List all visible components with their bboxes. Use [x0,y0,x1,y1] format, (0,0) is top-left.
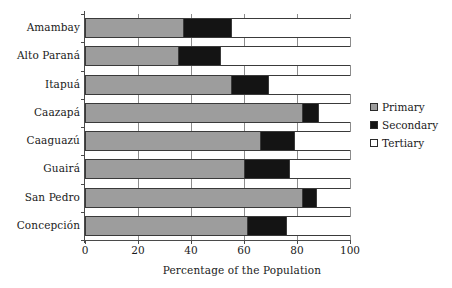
bar-row [85,46,350,66]
bar-segment-tertiary[interactable] [319,104,351,122]
bar-segment-primary[interactable] [86,47,179,65]
legend-swatch-tertiary-icon [370,139,378,147]
bar-segment-secondary[interactable] [248,217,288,235]
bar-segment-tertiary[interactable] [290,160,351,178]
bar-segment-tertiary[interactable] [232,19,351,37]
bar-segment-primary[interactable] [86,160,245,178]
bar-segment-tertiary[interactable] [287,217,351,235]
x-axis-tick-label: 0 [65,244,105,256]
legend-item-tertiary[interactable]: Tertiary [370,135,450,151]
y-axis-category-label: Amambay [0,22,80,33]
bar-segment-secondary[interactable] [303,189,316,207]
stacked-bar[interactable] [85,46,350,66]
y-axis-tick [81,240,85,241]
y-axis-tick [81,155,85,156]
y-axis-tick [81,184,85,185]
y-axis-category-label: San Pedro [0,192,80,203]
stacked-bar[interactable] [85,131,350,151]
legend-swatch-secondary-icon [370,121,378,129]
y-axis-category-label: Concepción [0,220,80,231]
bar-segment-primary[interactable] [86,132,261,150]
bar-segment-secondary[interactable] [179,47,221,65]
y-axis-category-label: Guairá [0,163,80,174]
y-axis-tick [81,42,85,43]
plot-area [85,14,350,240]
stacked-bar[interactable] [85,216,350,236]
legend-label: Tertiary [382,137,424,149]
stacked-bar[interactable] [85,18,350,38]
stacked-bar[interactable] [85,75,350,95]
x-axis-title: Percentage of the Population [0,264,452,276]
y-axis-category-labels: AmambayAlto ParanáItapuáCaazapáCaaguazúG… [0,14,80,240]
x-axis-title-text: Percentage of the Population [163,264,321,276]
bar-segment-tertiary[interactable] [317,189,351,207]
legend-swatch-primary-icon [370,103,378,111]
bar-segment-primary[interactable] [86,76,232,94]
x-axis-tick-label: 100 [330,244,370,256]
x-axis-tick-label: 20 [118,244,158,256]
y-axis-category-label: Caaguazú [0,135,80,146]
stacked-bar[interactable] [85,188,350,208]
bar-row [85,75,350,95]
y-axis-tick [81,71,85,72]
bar-segment-secondary[interactable] [303,104,319,122]
x-axis-tick-label: 60 [224,244,264,256]
bar-segment-primary[interactable] [86,104,303,122]
bar-segment-primary[interactable] [86,217,248,235]
y-axis-category-label: Caazapá [0,107,80,118]
bar-row [85,188,350,208]
bar-segment-tertiary[interactable] [269,76,351,94]
bar-segment-tertiary[interactable] [221,47,351,65]
chart-figure: AmambayAlto ParanáItapuáCaazapáCaaguazúG… [0,0,452,288]
bar-row [85,131,350,151]
bar-segment-secondary[interactable] [261,132,295,150]
legend-item-primary[interactable]: Primary [370,99,450,115]
bar-segment-primary[interactable] [86,19,184,37]
bar-row [85,216,350,236]
bar-row [85,18,350,38]
stacked-bar[interactable] [85,103,350,123]
legend-label: Secondary [382,119,438,131]
y-axis-category-label: Itapuá [0,79,80,90]
bar-segment-tertiary[interactable] [295,132,351,150]
x-axis-tick-label: 80 [277,244,317,256]
bar-segment-secondary[interactable] [184,19,232,37]
bar-segment-secondary[interactable] [232,76,269,94]
x-axis-tick-label: 40 [171,244,211,256]
bar-segment-primary[interactable] [86,189,303,207]
legend-label: Primary [382,101,425,113]
y-axis-category-label: Alto Paraná [0,50,80,61]
stacked-bar[interactable] [85,159,350,179]
y-axis-tick [81,14,85,15]
bar-segment-secondary[interactable] [245,160,290,178]
chart-legend: PrimarySecondaryTertiary [370,99,450,153]
y-axis-tick [81,99,85,100]
y-axis-tick [81,212,85,213]
x-axis-line [84,240,351,241]
bar-row [85,103,350,123]
y-axis-tick [81,127,85,128]
legend-item-secondary[interactable]: Secondary [370,117,450,133]
bar-row [85,159,350,179]
